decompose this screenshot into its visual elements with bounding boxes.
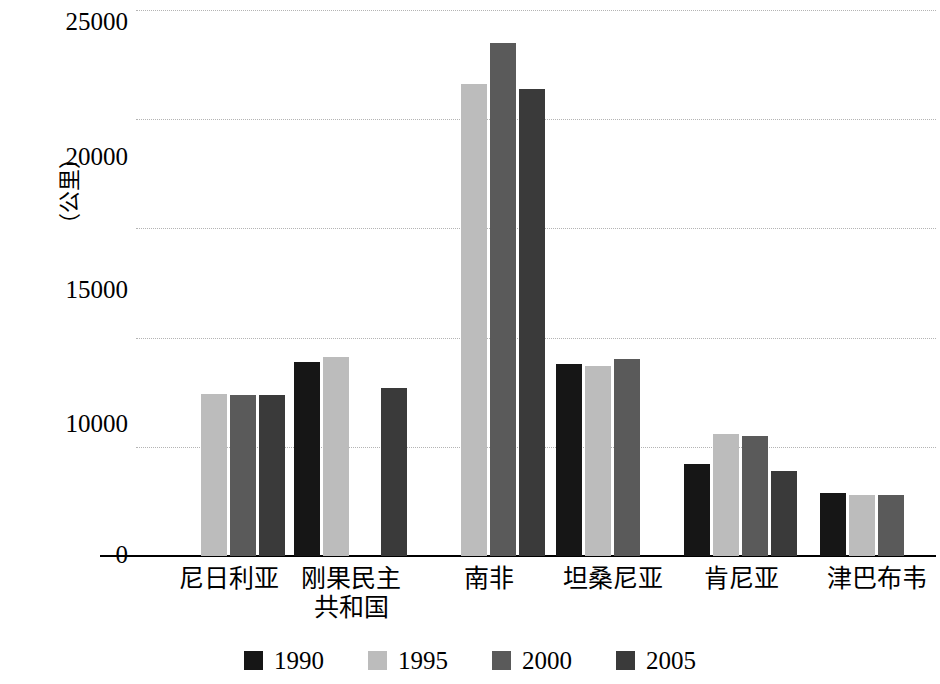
legend-item: 2005: [616, 648, 696, 673]
legend-swatch-icon: [244, 651, 263, 670]
bar: [201, 394, 227, 556]
bar: [684, 464, 710, 556]
legend-swatch-icon: [368, 651, 387, 670]
bar: [259, 395, 285, 556]
legend: 1990199520002005: [0, 648, 940, 673]
bar: [461, 84, 487, 556]
legend-label: 2000: [522, 648, 572, 673]
bar: [849, 495, 875, 556]
bar: [820, 493, 846, 556]
plot-area: [136, 10, 936, 556]
legend-label: 1995: [398, 648, 448, 673]
x-tick-label: 刚果民主 共和国: [271, 564, 431, 622]
bar: [771, 471, 797, 556]
bar: [585, 366, 611, 556]
legend-swatch-icon: [616, 651, 635, 670]
bar: [713, 434, 739, 556]
x-tick-label: 津巴布韦: [797, 564, 940, 593]
legend-label: 2005: [646, 648, 696, 673]
y-tick-label: 20000: [8, 144, 128, 169]
bar-group: [172, 10, 288, 556]
legend-item: 2000: [492, 648, 572, 673]
bar-group: [556, 10, 672, 556]
legend-item: 1990: [244, 648, 324, 673]
bar-group: [294, 10, 410, 556]
bar-chart: （公里） 250002000015000100000 尼日利亚刚果民主 共和国南…: [0, 0, 940, 684]
y-tick-label: 15000: [8, 277, 128, 302]
bar: [519, 89, 545, 556]
bar-group: [432, 10, 548, 556]
bar-group: [820, 10, 936, 556]
bar: [556, 364, 582, 556]
y-axis-tick-labels: 250002000015000100000: [0, 0, 128, 684]
bar-group: [684, 10, 800, 556]
bar: [230, 395, 256, 556]
bar: [323, 357, 349, 556]
y-tick-label: 10000: [8, 411, 128, 436]
legend-swatch-icon: [492, 651, 511, 670]
y-tick-label: 25000: [8, 9, 128, 34]
bar: [294, 362, 320, 556]
bar: [742, 436, 768, 556]
bar: [878, 495, 904, 556]
legend-item: 1995: [368, 648, 448, 673]
legend-label: 1990: [274, 648, 324, 673]
bar: [490, 43, 516, 556]
bar: [381, 388, 407, 556]
bar: [614, 359, 640, 556]
